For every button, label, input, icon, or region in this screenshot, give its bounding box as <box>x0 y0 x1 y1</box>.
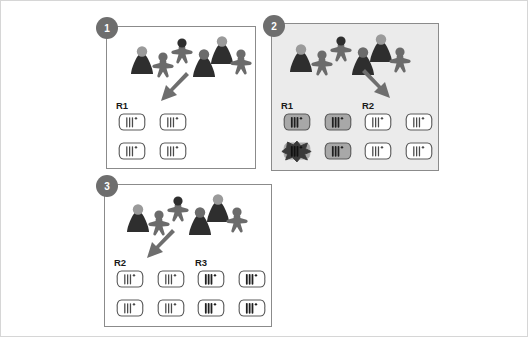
panel-badge-1: 1 <box>96 17 118 39</box>
bacterial-cell-lysed <box>280 140 314 163</box>
cell-grid-r3-p3 <box>194 268 269 320</box>
group-label-r1-p2: R1 <box>281 100 293 111</box>
bacterial-cell <box>156 111 190 134</box>
bacterial-cell <box>115 111 149 134</box>
bacterial-cell <box>154 297 188 320</box>
arrow-down-right-2 <box>358 68 392 102</box>
cell-grid-r1-p2 <box>280 111 355 163</box>
host-person-icon <box>229 49 253 81</box>
bacterial-cell <box>321 111 355 134</box>
bacterial-cell <box>154 268 188 291</box>
panel-2: R1 R2 <box>271 23 439 171</box>
cell-grid-r1-p1 <box>115 111 190 163</box>
group-label-r2-p3: R2 <box>114 257 126 268</box>
host-person-icon <box>225 207 249 239</box>
bacterial-cell <box>402 140 436 163</box>
bacterial-cell <box>235 268 269 291</box>
bacterial-cell <box>113 297 147 320</box>
bacterial-cell <box>321 140 355 163</box>
panel-badge-2: 2 <box>263 15 285 37</box>
panel-3: R2 R3 <box>104 184 272 327</box>
panel-1: R1 <box>106 26 256 169</box>
panel-badge-3: 3 <box>96 175 118 197</box>
bacterial-cell <box>280 111 314 134</box>
host-group-3 <box>125 190 235 235</box>
bacterial-cell <box>156 140 190 163</box>
cell-grid-r2-p3 <box>113 268 188 320</box>
bacterial-cell <box>194 268 228 291</box>
figure-canvas: R1 1 R1 R2 2 R2 R3 3 <box>0 0 528 337</box>
bacterial-cell <box>115 140 149 163</box>
bacterial-cell <box>113 268 147 291</box>
bacterial-cell <box>235 297 269 320</box>
group-label-r2-p2: R2 <box>362 100 374 111</box>
bacterial-cell <box>194 297 228 320</box>
bacterial-cell <box>361 140 395 163</box>
group-label-r3-p3: R3 <box>195 257 207 268</box>
bacterial-cell <box>361 111 395 134</box>
cell-grid-r2-p2 <box>361 111 436 163</box>
arrow-down-left-1 <box>159 71 193 105</box>
group-label-r1-p1: R1 <box>116 100 128 111</box>
bacterial-cell <box>402 111 436 134</box>
arrow-down-left-3 <box>145 228 179 262</box>
